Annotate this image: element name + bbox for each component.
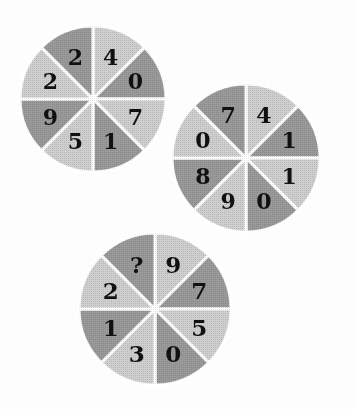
sector-digit: 4 <box>103 44 118 70</box>
pie-wheel-3: 9750312? <box>79 233 231 385</box>
sector-digit: 7 <box>191 277 207 304</box>
sector-digit: 0 <box>256 188 271 214</box>
pie-wheel-2: 41109807 <box>172 84 320 232</box>
sector-digit: 7 <box>221 102 236 128</box>
sector-digit: 0 <box>165 340 181 367</box>
sector-digit: 5 <box>68 128 83 154</box>
sector-digit: 1 <box>281 163 296 189</box>
sector-digit: ? <box>130 251 143 278</box>
puzzle-figure: 40715922411098079750312? <box>0 0 355 409</box>
sector-digit: 2 <box>103 277 119 304</box>
sector-digit: 9 <box>221 188 236 214</box>
sector-digit: 8 <box>195 163 210 189</box>
sector-digit: 0 <box>128 68 143 94</box>
pie-wheel-1: 40715922 <box>20 26 166 172</box>
sector-digit: 4 <box>256 102 271 128</box>
sector-digit: 2 <box>68 44 83 70</box>
sector-digit: 3 <box>129 340 145 367</box>
sector-digit: 2 <box>43 68 58 94</box>
sector-digit: 7 <box>128 104 143 130</box>
sector-digit: 9 <box>43 104 58 130</box>
sector-digit: 0 <box>195 127 210 153</box>
sector-digit: 1 <box>103 314 119 341</box>
sector-digit: 1 <box>103 128 118 154</box>
sector-digit: 5 <box>191 314 207 341</box>
sector-digit: 9 <box>165 251 181 278</box>
sector-digit: 1 <box>281 127 296 153</box>
